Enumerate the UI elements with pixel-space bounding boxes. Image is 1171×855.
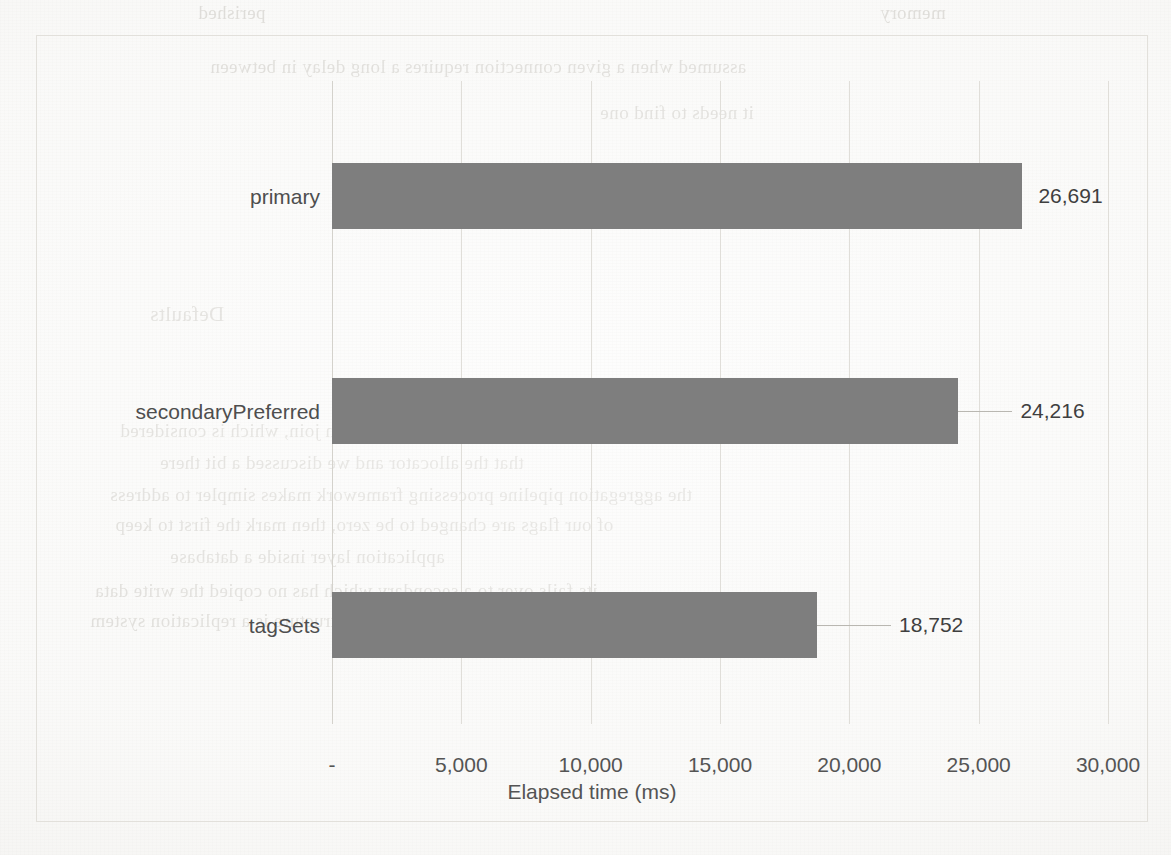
chart-label-leader-line [817,625,891,626]
chart-data-label: 26,691 [1038,185,1102,206]
chart-category-label: tagSets [249,615,320,636]
chart-label-leader-line [958,411,1012,412]
chart-bar [332,163,1022,229]
chart-data-label: 18,752 [899,614,963,635]
chart-plot-area: primary26,691secondaryPreferred24,216tag… [332,81,1108,724]
chart-category-label: secondaryPreferred [136,401,320,422]
chart-x-tick-label: 25,000 [947,754,1011,775]
chart-x-tick-label: - [329,754,336,775]
chart-data-label: 24,216 [1020,400,1084,421]
chart-x-tick-label: 10,000 [559,754,623,775]
bleed-through-text: perished [198,2,266,24]
chart-x-tick-label: 5,000 [435,754,488,775]
bleed-through-text: memory [880,2,946,24]
scanned-chart-page: perishedmemoryassumed when a given conne… [0,0,1171,855]
chart-bar [332,592,817,658]
chart-bar [332,378,958,444]
chart-category-label: primary [250,186,320,207]
chart-x-tick-label: 15,000 [688,754,752,775]
chart-x-tick-label: 20,000 [817,754,881,775]
chart-frame: primary26,691secondaryPreferred24,216tag… [36,35,1148,822]
chart-gridline [1108,81,1109,724]
chart-x-axis-title: Elapsed time (ms) [37,781,1147,802]
chart-x-tick-label: 30,000 [1076,754,1140,775]
